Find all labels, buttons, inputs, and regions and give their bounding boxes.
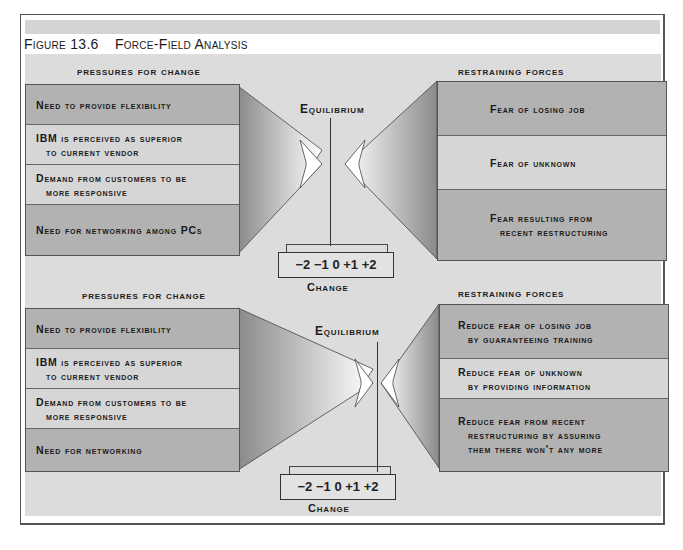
figure-number: Figure 13.6	[24, 36, 99, 52]
restraining-item: Fear resulting from recent restructuring	[438, 190, 666, 260]
figure-title: Figure 13.6 Force-Field Analysis	[24, 36, 248, 52]
pressure-item: Need for networking	[26, 429, 239, 471]
restraining-item: Reduce fear from recent restructuring by…	[440, 399, 668, 471]
restraining-box: Reduce fear of losing job by guaranteein…	[439, 304, 669, 472]
change-scale: −2 −1 0 +1 +2	[278, 252, 394, 278]
force-field-panel-current: Pressures for Change Restraining Forces …	[25, 54, 661, 290]
equilibrium-line	[330, 118, 331, 246]
pressure-item: Need for networking among PCs	[26, 205, 239, 255]
figure-name: Force-Field Analysis	[115, 36, 248, 52]
equilibrium-label: Equilibrium	[315, 324, 379, 338]
restraining-item: Fear of unknown	[438, 136, 666, 190]
pressure-item: Demand from customers to be more respons…	[26, 165, 239, 205]
restraining-item: Fear of losing job	[438, 82, 666, 136]
restraining-item: Reduce fear of unknown by providing info…	[440, 359, 668, 399]
pressure-item: Demand from customers to be more respons…	[26, 389, 239, 429]
change-scale: −2 −1 0 +1 +2	[280, 474, 396, 500]
pressure-item: IBM is perceived as superior to current …	[26, 125, 239, 165]
restraining-box: Fear of losing job Fear of unknown Fear …	[437, 81, 667, 261]
force-field-panel-reduced: Pressures for Change Restraining Forces …	[25, 288, 661, 516]
pressure-item: Need to provide flexibility	[26, 309, 239, 349]
change-label: Change	[308, 502, 350, 514]
equilibrium-line	[377, 342, 378, 472]
pressure-item: IBM is perceived as superior to current …	[26, 349, 239, 389]
equilibrium-label: Equilibrium	[300, 102, 364, 116]
pressure-item: Need to provide flexibility	[26, 85, 239, 125]
pressures-box: Need to provide flexibility IBM is perce…	[25, 308, 240, 472]
diagram-area: Pressures for Change Restraining Forces …	[25, 54, 661, 516]
restraining-item: Reduce fear of losing job by guaranteein…	[440, 305, 668, 359]
pressures-box: Need to provide flexibility IBM is perce…	[25, 84, 240, 256]
figure-top-bar	[25, 20, 660, 34]
